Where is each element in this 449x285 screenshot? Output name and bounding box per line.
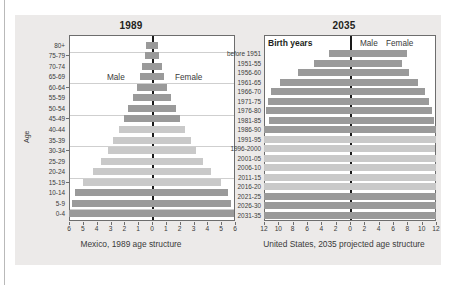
x-axis-label: 12 [429, 225, 443, 232]
x-axis-label: 3 [187, 225, 201, 232]
x-axis-label: 1 [159, 225, 173, 232]
x-axis-label: 2 [173, 225, 187, 232]
bar-male [108, 147, 152, 154]
bar-female [350, 79, 418, 86]
bar-male [264, 193, 350, 200]
bar-male [280, 79, 350, 86]
bar-male [264, 145, 350, 152]
top-ghost-text [30, 0, 360, 9]
row-label: 70-74 [27, 63, 65, 70]
page-edge-rule [4, 0, 5, 285]
x-axis-label: 4 [372, 225, 386, 232]
row-label: 45-49 [27, 115, 65, 122]
bar-male [142, 63, 152, 70]
row-label: 2031-35 [209, 212, 261, 219]
bar-male [271, 88, 350, 95]
x-axis-label: 4 [90, 225, 104, 232]
x-axis-label: 6 [300, 225, 314, 232]
bar-female [152, 147, 196, 154]
bar-female [152, 63, 162, 70]
bar-female [350, 136, 436, 143]
row-label: 1966-70 [209, 88, 261, 95]
bar-female [350, 126, 436, 133]
bar-female [152, 137, 191, 144]
axis-tick [66, 55, 69, 56]
bar-female [152, 84, 167, 91]
x-axis-label: 5 [76, 225, 90, 232]
row-label: 1956-60 [209, 69, 261, 76]
bar-female [350, 183, 436, 190]
x-axis-label: 2 [117, 225, 131, 232]
bar-female [350, 60, 402, 67]
bar-female [350, 107, 432, 114]
bar-female [350, 202, 436, 209]
x-axis-label: 12 [257, 225, 271, 232]
x-axis-label: 5 [214, 225, 228, 232]
bar-male [264, 164, 350, 171]
bar-male [133, 94, 152, 101]
x-axis-label: 6 [228, 225, 242, 232]
bar-female [152, 105, 176, 112]
axis-tick [66, 118, 69, 119]
bar-female [152, 126, 185, 133]
row-label: 75-79 [27, 52, 65, 59]
row-label: 1971-75 [209, 98, 261, 105]
bar-female [350, 174, 436, 181]
bar-female [350, 117, 434, 124]
x-axis-label: 6 [62, 225, 76, 232]
bar-male [298, 69, 350, 76]
row-label: 1991-95 [209, 136, 261, 143]
bar-male [264, 126, 350, 133]
bar-male [145, 52, 152, 59]
bar-male [69, 210, 152, 217]
axis-tick [66, 150, 69, 151]
row-label: 35-39 [27, 137, 65, 144]
bar-female [152, 94, 171, 101]
bar-female [350, 212, 436, 219]
row-label: 1976-80 [209, 107, 261, 114]
figure-page: 1989 Age 80+75-7970-7465-6960-6455-5950-… [0, 0, 449, 285]
x-axis-label: 3 [104, 225, 118, 232]
x-axis-label: 8 [400, 225, 414, 232]
bar-female [350, 145, 435, 152]
bar-male [101, 158, 152, 165]
label-female-right: Female [386, 39, 413, 48]
x-axis-label: 8 [286, 225, 300, 232]
caption-right: United States, 2035 projected age struct… [247, 239, 441, 249]
row-label: 2021-25 [209, 193, 261, 200]
axis-tick [66, 182, 69, 183]
bar-male [137, 84, 152, 91]
x-axis-label: 4 [314, 225, 328, 232]
row-label: 10-14 [27, 189, 65, 196]
row-label: 1981-85 [209, 117, 261, 124]
bar-female [350, 164, 436, 171]
bar-male [119, 126, 152, 133]
bar-female [350, 193, 436, 200]
row-label: 25-29 [27, 158, 65, 165]
bar-female [152, 158, 203, 165]
panel-usa-2035: 2035 Birth years Male Female before 1951… [247, 15, 441, 265]
x-axis-label: 0 [343, 225, 357, 232]
bar-female [350, 155, 436, 162]
bar-female [350, 88, 425, 95]
bar-male [72, 200, 152, 207]
bar-male [266, 107, 350, 114]
row-label: 5-9 [27, 200, 65, 207]
row-label: before 1951 [209, 50, 261, 57]
bar-female [152, 115, 180, 122]
bar-male [124, 115, 152, 122]
bar-female [350, 69, 409, 76]
row-label: 2006-10 [209, 164, 261, 171]
row-label: 40-44 [27, 126, 65, 133]
row-label: 80+ [27, 42, 65, 49]
bar-male [75, 189, 152, 196]
bar-female [152, 168, 211, 175]
bar-female [350, 50, 407, 57]
row-label: 20-24 [27, 168, 65, 175]
bar-male [113, 137, 152, 144]
bar-male [93, 168, 152, 175]
bar-male [128, 105, 152, 112]
row-label: 60-64 [27, 84, 65, 91]
x-axis-label: 6 [386, 225, 400, 232]
bar-male [264, 212, 350, 219]
